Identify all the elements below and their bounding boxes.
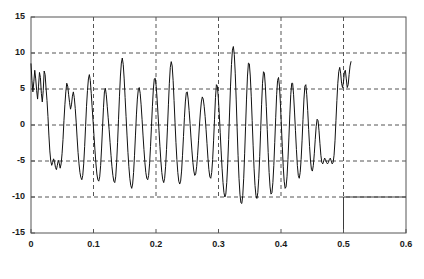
x-axis-tick-label: 0.3 (212, 239, 225, 249)
x-axis-labels: 00.10.20.30.40.50.6 (28, 239, 412, 249)
x-axis-tick-label: 0 (28, 239, 33, 249)
y-axis-tick-label: -5 (17, 155, 25, 165)
x-axis-tick-label: 0.5 (337, 239, 350, 249)
y-axis-tick-label: 5 (20, 83, 25, 93)
x-axis-tick-label: 0.4 (275, 239, 288, 249)
x-axis-tick-label: 0.2 (150, 239, 163, 249)
y-axis-tick-label: 0 (20, 119, 25, 129)
x-axis-tick-label: 0.6 (400, 239, 413, 249)
y-axis-tick-label: 15 (15, 11, 25, 21)
y-axis-tick-label: -15 (12, 227, 25, 237)
y-axis-tick-label: -10 (12, 191, 25, 201)
y-axis-labels: -15-10-5051015 (12, 11, 25, 237)
waveform-chart: -15-10-5051015 00.10.20.30.40.50.6 (0, 0, 424, 279)
chart-container: -15-10-5051015 00.10.20.30.40.50.6 (0, 0, 424, 279)
y-axis-tick-label: 10 (15, 47, 25, 57)
x-axis-tick-label: 0.1 (87, 239, 100, 249)
